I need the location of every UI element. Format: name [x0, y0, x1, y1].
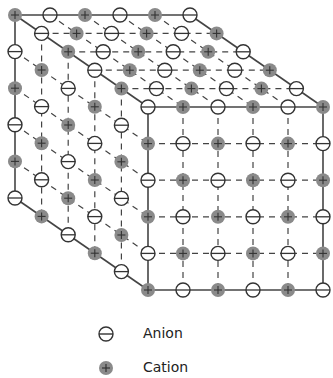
grid-line [15, 125, 148, 217]
anion-icon [96, 324, 116, 344]
cube-edge [15, 198, 148, 290]
grid-line [15, 88, 148, 180]
cation-icon [96, 358, 116, 378]
grid-line [15, 161, 148, 253]
legend-label-cation: Cation [143, 359, 188, 375]
crystal-lattice-diagram [0, 0, 333, 310]
legend-item-cation: Cation [96, 358, 116, 378]
legend-label-anion: Anion [143, 325, 183, 341]
legend-item-anion: Anion [96, 324, 116, 344]
